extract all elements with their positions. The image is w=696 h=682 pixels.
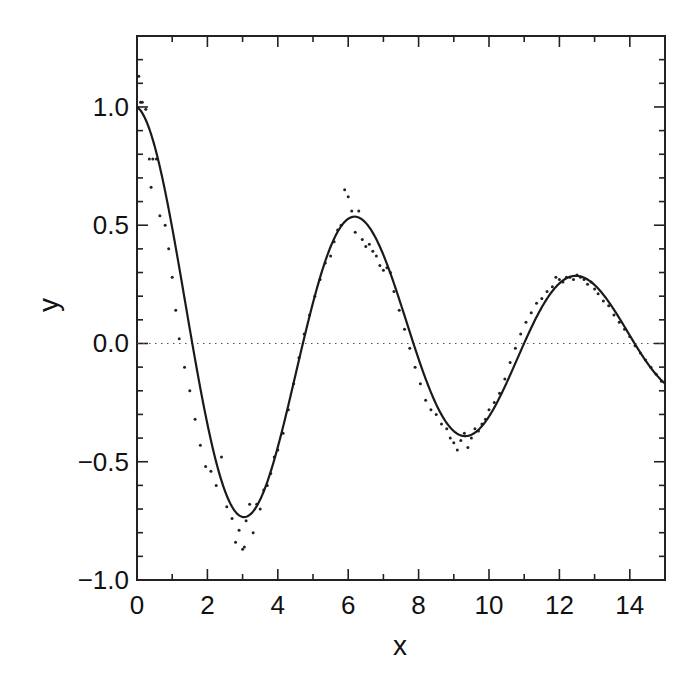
data-point <box>188 389 191 392</box>
data-point <box>473 427 476 430</box>
data-point <box>602 299 605 302</box>
data-point <box>178 337 181 340</box>
data-point <box>150 186 153 189</box>
data-point <box>371 250 374 253</box>
data-point <box>167 247 170 250</box>
x-tick-label: 0 <box>130 590 144 620</box>
data-point <box>408 347 411 350</box>
data-point <box>151 157 154 160</box>
data-point <box>572 278 575 281</box>
y-tick-label: 0.5 <box>93 210 129 240</box>
y-tick-label: −0.5 <box>78 447 129 477</box>
y-tick-label: −1.0 <box>78 565 129 595</box>
x-tick-label: 10 <box>475 590 504 620</box>
data-point <box>463 432 466 435</box>
fit-curve <box>137 107 665 517</box>
data-point <box>220 456 223 459</box>
chart: 02468101214−1.0−0.50.00.51.0 x y <box>0 0 696 682</box>
data-point <box>551 285 554 288</box>
data-point <box>375 254 378 257</box>
data-point <box>488 408 491 411</box>
data-point <box>435 413 438 416</box>
data-point <box>452 441 455 444</box>
data-point <box>368 243 371 246</box>
y-tick-label: 1.0 <box>93 92 129 122</box>
data-point <box>364 245 367 248</box>
data-point <box>378 264 381 267</box>
data-point <box>419 382 422 385</box>
data-point <box>535 302 538 305</box>
data-point <box>243 545 246 548</box>
data-point <box>524 321 527 324</box>
data-point <box>231 517 234 520</box>
data-point <box>612 314 615 317</box>
data-point <box>597 292 600 295</box>
data-point <box>137 75 140 78</box>
x-tick-label: 14 <box>615 590 644 620</box>
data-point <box>558 278 561 281</box>
data-point <box>586 283 589 286</box>
data-point <box>148 157 151 160</box>
data-point <box>174 309 177 312</box>
data-point <box>392 290 395 293</box>
data-point <box>503 377 506 380</box>
data-point <box>514 347 517 350</box>
x-tick-label: 2 <box>200 590 214 620</box>
data-point <box>194 418 197 421</box>
x-tick-label: 12 <box>545 590 574 620</box>
data-point <box>519 333 522 336</box>
data-point <box>329 254 332 257</box>
data-point <box>215 484 218 487</box>
data-point <box>403 328 406 331</box>
data-point <box>509 361 512 364</box>
data-point <box>248 503 251 506</box>
x-tick-label: 8 <box>411 590 425 620</box>
data-point <box>252 531 255 534</box>
data-point <box>459 439 462 442</box>
data-point <box>429 408 432 411</box>
data-point <box>530 311 533 314</box>
data-point <box>158 214 161 217</box>
data-point <box>466 446 469 449</box>
data-point <box>449 437 452 440</box>
data-point <box>440 422 443 425</box>
data-point <box>199 444 202 447</box>
data-point <box>234 541 237 544</box>
data-point <box>554 276 557 279</box>
data-point <box>546 290 549 293</box>
data-point <box>357 210 360 213</box>
data-point <box>347 195 350 198</box>
data-point <box>424 399 427 402</box>
data-point <box>225 505 228 508</box>
data-point <box>350 210 353 213</box>
data-point <box>204 465 207 468</box>
data-point <box>414 366 417 369</box>
data-point <box>361 238 364 241</box>
data-point <box>354 231 357 234</box>
y-tick-label: 0.0 <box>93 328 129 358</box>
data-point <box>209 470 212 473</box>
data-point <box>245 519 248 522</box>
data-point <box>141 101 144 104</box>
data-point <box>343 188 346 191</box>
fit-line <box>137 107 665 517</box>
data-points <box>137 75 663 551</box>
data-point <box>382 269 385 272</box>
y-axis-label: y <box>33 298 64 312</box>
data-point <box>445 427 448 430</box>
data-point <box>238 529 241 532</box>
data-point <box>183 366 186 369</box>
x-tick-label: 4 <box>271 590 285 620</box>
data-point <box>593 288 596 291</box>
data-point <box>540 297 543 300</box>
data-point <box>171 276 174 279</box>
data-point <box>164 224 167 227</box>
tick-labels: 02468101214−1.0−0.50.00.51.0 <box>78 92 645 620</box>
data-point <box>144 108 147 111</box>
x-axis-label: x <box>393 630 407 661</box>
data-point <box>259 508 262 511</box>
data-point <box>470 437 473 440</box>
data-point <box>456 448 459 451</box>
x-tick-label: 6 <box>341 590 355 620</box>
data-point <box>398 309 401 312</box>
